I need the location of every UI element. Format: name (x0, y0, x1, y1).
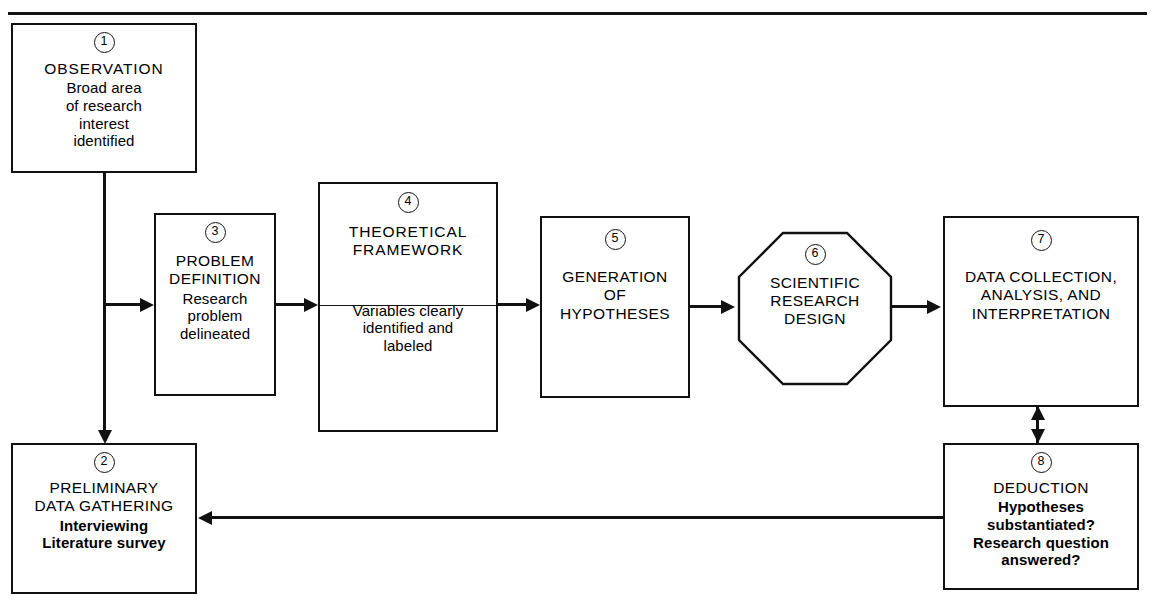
edge-research-design-to-data-collection-arrowhead (927, 300, 941, 314)
node-subtitle: Research problem delineated (180, 290, 250, 343)
edge-deduction-to-preliminary-arrowhead (198, 511, 212, 525)
node-subtitle: Hypotheses substantiated? Research quest… (973, 498, 1109, 569)
node-number-badge: 6 (805, 244, 826, 265)
node-title: PROBLEM DEFINITION (169, 252, 261, 289)
node-subtitle: Interviewing Literature survey (42, 517, 165, 552)
edge-observation-to-preliminary-arrowhead (98, 430, 112, 444)
edge-problem-definition-to-theoretical-framework-line (276, 303, 306, 306)
top-horizontal-rule (8, 12, 1147, 15)
node-subtitle: Variables clearly identified and labeled (353, 302, 464, 355)
edge-problem-definition-to-theoretical-framework-arrowhead (304, 298, 318, 312)
edge-generation-to-research-design-line (690, 305, 723, 308)
edge-observation-to-problem-definition-line (103, 303, 142, 306)
node-scientific-research-design: 6 SCIENTIFIC RESEARCH DESIGN (737, 231, 893, 386)
node-deduction: 8 DEDUCTION Hypotheses substantiated? Re… (943, 443, 1139, 590)
flowchart-canvas: 1 OBSERVATION Broad area of research int… (0, 0, 1155, 608)
edge-observation-to-problem-definition-arrowhead (140, 298, 154, 312)
edge-deduction-to-preliminary-feedback-line (212, 516, 943, 519)
node-observation: 1 OBSERVATION Broad area of research int… (11, 23, 197, 173)
node-number-badge: 8 (1031, 452, 1052, 473)
theoretical-framework-divider (320, 305, 496, 306)
node-title: DATA COLLECTION, ANALYSIS, AND INTERPRET… (965, 268, 1117, 323)
node-title: DEDUCTION (993, 479, 1089, 497)
node-number-badge: 7 (1031, 230, 1052, 251)
node-number-badge: 4 (398, 192, 419, 213)
node-preliminary-data-gathering: 2 PRELIMINARY DATA GATHERING Interviewin… (11, 443, 197, 594)
node-subtitle: Broad area of research interest identifi… (66, 79, 142, 150)
edge-data-collection-to-deduction-arrowhead (1031, 429, 1045, 443)
node-problem-definition: 3 PROBLEM DEFINITION Research problem de… (154, 213, 276, 396)
node-title: OBSERVATION (44, 60, 163, 78)
node-title: SCIENTIFIC RESEARCH DESIGN (770, 274, 860, 328)
clipped-header-fragment (120, 0, 540, 8)
node-title: PRELIMINARY DATA GATHERING (34, 479, 173, 516)
node-number-badge: 5 (605, 229, 626, 250)
node-number-badge: 1 (94, 32, 115, 53)
node-generation-of-hypotheses: 5 GENERATION OF HYPOTHESES (540, 216, 690, 398)
node-number-badge: 2 (94, 452, 115, 473)
node-title: THEORETICAL FRAMEWORK (349, 223, 467, 260)
edge-generation-to-research-design-arrowhead (721, 300, 735, 314)
edge-deduction-to-data-collection-arrowhead (1031, 406, 1045, 420)
node-title: GENERATION OF HYPOTHESES (560, 268, 670, 323)
edge-research-design-to-data-collection-line (891, 305, 929, 308)
edge-theoretical-framework-to-generation-arrowhead (526, 298, 540, 312)
edge-theoretical-framework-to-generation-line (498, 303, 528, 306)
node-data-collection-analysis-interpretation: 7 DATA COLLECTION, ANALYSIS, AND INTERPR… (943, 216, 1139, 407)
node-theoretical-framework: 4 THEORETICAL FRAMEWORK Variables clearl… (318, 182, 498, 432)
node-number-badge: 3 (205, 222, 226, 243)
